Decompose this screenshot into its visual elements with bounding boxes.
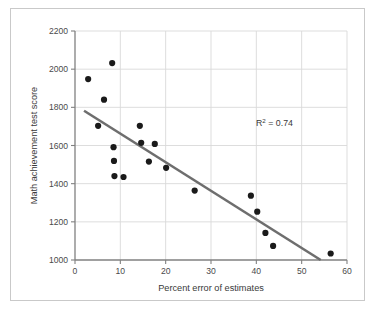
data-point	[270, 243, 276, 249]
y-tick-label: 2000	[49, 64, 68, 74]
data-point	[111, 173, 117, 179]
data-point	[163, 165, 169, 171]
y-axis-tick-labels: 1000120014001600180020002200	[49, 26, 68, 265]
x-tick-label: 50	[297, 266, 307, 276]
data-point	[254, 209, 260, 215]
x-tick-label: 0	[73, 266, 78, 276]
y-axis-label: Math achievement test score	[29, 87, 39, 204]
r-squared-annotation: R2 = 0.74	[256, 117, 293, 128]
data-point	[328, 250, 334, 256]
x-axis-tick-labels: 0102030405060	[73, 266, 352, 276]
data-point	[109, 60, 115, 66]
figure-border: 1000120014001600180020002200 01020304050…	[10, 8, 365, 301]
data-point	[85, 76, 91, 82]
y-tick-label: 1200	[49, 217, 68, 227]
data-point	[137, 123, 143, 129]
data-point	[138, 140, 144, 146]
x-tick-label: 30	[206, 266, 216, 276]
data-point	[262, 230, 268, 236]
data-point	[101, 97, 107, 103]
data-point	[111, 158, 117, 164]
data-points	[85, 60, 334, 257]
y-tick-label: 1800	[49, 102, 68, 112]
y-tick-label: 1600	[49, 141, 68, 151]
x-tick-label: 10	[116, 266, 126, 276]
data-point	[110, 144, 116, 150]
figure-container: 1000120014001600180020002200 01020304050…	[0, 0, 377, 313]
x-axis-label: Percent error of estimates	[158, 283, 264, 293]
data-point	[95, 123, 101, 129]
y-tick-label: 2200	[49, 26, 68, 36]
data-point	[152, 141, 158, 147]
data-point	[146, 158, 152, 164]
data-point	[120, 174, 126, 180]
x-tick-label: 40	[252, 266, 262, 276]
y-tick-label: 1000	[49, 255, 68, 265]
trend-line	[84, 111, 321, 260]
x-tick-label: 20	[161, 266, 171, 276]
x-tick-label: 60	[342, 266, 352, 276]
data-point	[192, 187, 198, 193]
data-point	[248, 193, 254, 199]
scatter-plot: 1000120014001600180020002200 01020304050…	[11, 9, 364, 300]
y-tick-label: 1400	[49, 179, 68, 189]
